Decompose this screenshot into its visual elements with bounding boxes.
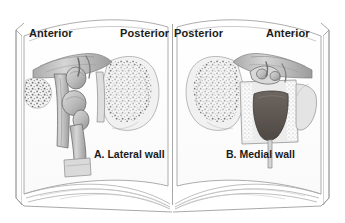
left-page-label-posterior: Posterior — [120, 28, 169, 39]
caption-medial-wall: B. Medial wall — [226, 149, 295, 160]
anatomy-figure: Anterior Posterior Posterior Anterior A.… — [0, 0, 345, 223]
left-page-label-anterior: Anterior — [29, 28, 73, 39]
right-page-label-posterior: Posterior — [174, 28, 223, 39]
caption-lateral-wall: A. Lateral wall — [94, 149, 165, 160]
right-page-label-anterior: Anterior — [266, 28, 310, 39]
